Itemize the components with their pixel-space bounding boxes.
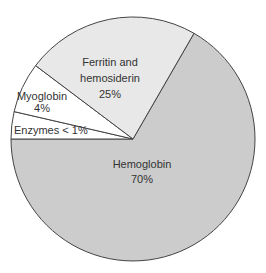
label-ferritin-value: 25%	[99, 88, 121, 100]
label-myoglobin-name: Myoglobin	[17, 90, 67, 102]
label-myoglobin-value: 4%	[34, 102, 50, 114]
label-ferritin-line1: Ferritin and	[82, 56, 138, 68]
label-enzymes: Enzymes < 1%	[14, 124, 88, 136]
label-hemoglobin-name: Hemoglobin	[113, 158, 172, 170]
label-hemoglobin-value: 70%	[131, 173, 153, 185]
label-ferritin-line2: hemosiderin	[80, 72, 140, 84]
pie-chart: Ferritin and hemosiderin 25% Myoglobin 4…	[0, 0, 266, 273]
